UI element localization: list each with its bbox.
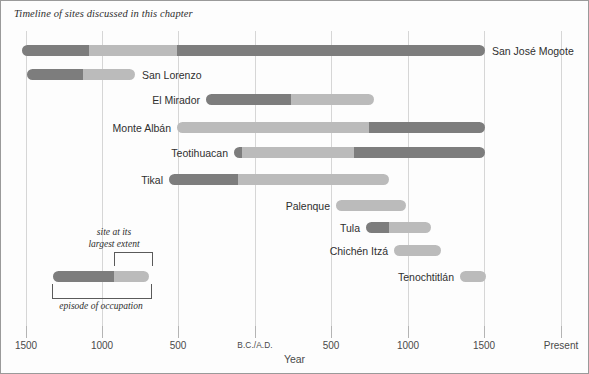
axis-tick-label: 500 (170, 340, 187, 351)
bar-segment-light (460, 271, 486, 282)
legend-segment-dark (53, 271, 114, 282)
bar-segment-dark (366, 222, 389, 233)
legend-bracket-bottom (52, 284, 152, 299)
timeline-figure: Timeline of sites discussed in this chap… (0, 0, 589, 374)
bar-label: San Lorenzo (142, 70, 202, 81)
axis-tick-label: Present (544, 340, 578, 351)
bar-label: San José Mogote (492, 46, 574, 57)
bar-segment-dark (234, 147, 242, 158)
bar-segment-dark (27, 69, 83, 80)
bar-segment-light (336, 200, 406, 211)
axis-tick (178, 326, 179, 338)
axis-tick (102, 326, 103, 338)
bar-segment-light (177, 122, 369, 133)
legend-segment-light (114, 271, 149, 282)
legend-top-label-line2: largest extent (88, 239, 139, 250)
axis-tick (561, 326, 562, 338)
timeline-bar[interactable] (27, 69, 135, 80)
bar-segment-dark (169, 174, 238, 185)
timeline-bar[interactable] (22, 45, 485, 56)
bar-segment-dark (369, 122, 485, 133)
bar-segment-light (242, 147, 354, 158)
timeline-bar[interactable] (206, 94, 374, 105)
axis-tick-label: B.C./A.D. (237, 340, 272, 350)
timeline-bar[interactable] (169, 174, 389, 185)
bar-label: Palenque (286, 201, 330, 212)
bar-segment-light (89, 45, 177, 56)
bar-label: El Mirador (152, 95, 200, 106)
bar-segment-light (238, 174, 389, 185)
timeline-bar[interactable] (366, 222, 431, 233)
bar-segment-dark (22, 45, 89, 56)
bar-label: Tikal (141, 175, 163, 186)
axis-tick-label: 1500 (473, 340, 495, 351)
timeline-bar[interactable] (177, 122, 485, 133)
axis-title: Year (1, 353, 588, 365)
bar-segment-light (291, 94, 374, 105)
figure-caption: Timeline of sites discussed in this chap… (14, 8, 193, 19)
timeline-bar[interactable] (234, 147, 485, 158)
timeline-bar[interactable] (394, 245, 441, 256)
legend-bottom-label: episode of occupation (59, 301, 142, 312)
axis-tick (484, 326, 485, 338)
bar-segment-dark (177, 45, 485, 56)
bar-segment-light (83, 69, 135, 80)
bar-label: Tenochtitlán (398, 272, 454, 283)
gridline (484, 31, 485, 326)
axis-tick-label: 1000 (91, 340, 113, 351)
timeline-bar[interactable] (460, 271, 486, 282)
timeline-bar[interactable] (336, 200, 406, 211)
axis-tick-label: 500 (323, 340, 340, 351)
bar-segment-light (389, 222, 431, 233)
axis-tick (331, 326, 332, 338)
axis-tick (26, 326, 27, 338)
axis-tick (408, 326, 409, 338)
axis-tick-label: 1500 (15, 340, 37, 351)
axis-tick-label: 1000 (397, 340, 419, 351)
bar-segment-light (394, 245, 441, 256)
bar-segment-dark (206, 94, 291, 105)
legend-bracket-top (114, 252, 153, 266)
bar-label: Monte Albán (113, 123, 171, 134)
bar-label: Chichén Itzá (330, 246, 388, 257)
bar-label: Teotihuacan (171, 148, 228, 159)
axis-tick (255, 326, 256, 338)
bar-segment-dark (354, 147, 485, 158)
bar-label: Tula (340, 223, 360, 234)
gridline (561, 31, 562, 326)
legend-example-bar (53, 271, 149, 282)
legend-top-label-line1: site at its (97, 227, 131, 238)
